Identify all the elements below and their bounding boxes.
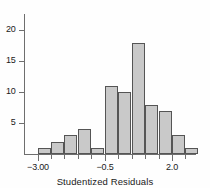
x-tick-minor bbox=[132, 155, 133, 159]
y-tick bbox=[19, 123, 24, 124]
histogram-bar bbox=[159, 111, 172, 154]
y-tick-label: 10 bbox=[0, 87, 16, 96]
x-tick-minor bbox=[145, 155, 146, 159]
histogram-bar bbox=[51, 142, 64, 154]
y-tick-label: 20 bbox=[0, 25, 16, 34]
histogram-bar bbox=[105, 86, 118, 154]
histogram-bar bbox=[145, 105, 158, 154]
x-tick-minor bbox=[91, 155, 92, 159]
plot-area: 5101520−3.00−0.52.0 bbox=[0, 0, 210, 188]
x-tick-minor bbox=[78, 155, 79, 159]
y-tick-label: 5 bbox=[0, 118, 16, 127]
x-tick-minor bbox=[118, 155, 119, 159]
y-tick-label: 15 bbox=[0, 56, 16, 65]
x-tick-minor bbox=[159, 155, 160, 159]
x-tick bbox=[172, 155, 173, 161]
y-tick bbox=[19, 30, 24, 31]
histogram-figure: 5101520−3.00−0.52.0 Studentized Residual… bbox=[0, 0, 210, 188]
histogram-bar bbox=[64, 135, 77, 154]
histogram-bar bbox=[91, 148, 104, 154]
histogram-bar bbox=[38, 148, 51, 154]
x-tick-label: 2.0 bbox=[147, 163, 197, 172]
x-tick-label: −0.5 bbox=[80, 163, 130, 172]
x-tick-minor bbox=[51, 155, 52, 159]
y-axis-line bbox=[24, 14, 25, 155]
y-tick bbox=[19, 92, 24, 93]
histogram-bar bbox=[185, 148, 198, 154]
x-axis-line bbox=[24, 154, 197, 155]
y-tick bbox=[19, 61, 24, 62]
histogram-bar bbox=[172, 135, 185, 154]
x-axis-title: Studentized Residuals bbox=[0, 176, 210, 187]
x-tick-label: −3.00 bbox=[13, 163, 63, 172]
x-tick-minor bbox=[64, 155, 65, 159]
x-tick bbox=[105, 155, 106, 161]
histogram-bar bbox=[132, 43, 145, 154]
histogram-bar bbox=[78, 129, 91, 154]
x-tick-minor bbox=[185, 155, 186, 159]
histogram-bar bbox=[118, 92, 131, 154]
x-tick bbox=[38, 155, 39, 161]
